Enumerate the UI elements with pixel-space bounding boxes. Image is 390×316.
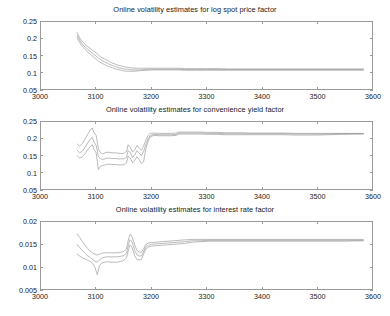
subplot-log-spot-price-factor: Online volatility estimates for log spot…: [0, 0, 390, 105]
y-axis-tick-label: 0.02: [0, 217, 37, 226]
plot-area: [40, 21, 373, 90]
data-line: [77, 134, 364, 170]
x-axis-tick: [262, 287, 263, 290]
data-line: [77, 133, 364, 159]
plot-area: [40, 121, 373, 190]
data-line: [77, 35, 364, 70]
plot-lines: [41, 122, 372, 189]
y-axis-tick: [40, 172, 43, 173]
x-axis-tick: [95, 87, 96, 90]
plot-lines: [41, 222, 372, 289]
x-axis-tick-label: 3300: [199, 292, 215, 301]
x-axis-tick: [206, 21, 207, 24]
x-axis-tick: [206, 287, 207, 290]
x-axis-tick: [206, 87, 207, 90]
y-axis-tick: [370, 155, 373, 156]
plot-area: [40, 221, 373, 290]
data-line: [77, 241, 364, 275]
x-axis-tick: [95, 287, 96, 290]
y-axis-tick-label: 0.25: [0, 117, 37, 126]
y-axis-tick-label: 0.15: [0, 51, 37, 60]
x-axis-tick: [262, 187, 263, 190]
subplot-title: Online volatility estimates for convenie…: [0, 105, 390, 114]
x-axis-tick: [317, 221, 318, 224]
y-axis-tick: [40, 90, 43, 91]
y-axis-tick: [40, 190, 43, 191]
x-axis-tick: [95, 221, 96, 224]
x-axis-tick: [151, 21, 152, 24]
y-axis-tick: [40, 155, 43, 156]
y-axis-tick: [370, 72, 373, 73]
x-axis-tick-label: 3100: [88, 292, 104, 301]
x-axis-tick: [262, 21, 263, 24]
x-axis-tick: [206, 187, 207, 190]
y-axis-tick: [370, 221, 373, 222]
subplot-title: Online volatility estimates for interest…: [0, 205, 390, 214]
x-axis-tick: [95, 21, 96, 24]
x-axis-tick: [95, 121, 96, 124]
plot-lines: [41, 22, 372, 89]
y-axis-tick: [370, 55, 373, 56]
y-axis-tick-label: 0.1: [0, 68, 37, 77]
y-axis-tick: [40, 21, 43, 22]
x-axis-tick: [151, 187, 152, 190]
x-axis-tick-label: 3600: [365, 292, 381, 301]
x-axis-tick: [317, 287, 318, 290]
subplot-interest-rate-factor: Online volatility estimates for interest…: [0, 200, 390, 305]
data-line: [77, 234, 364, 255]
y-axis-tick: [370, 121, 373, 122]
x-axis-tick: [151, 287, 152, 290]
x-axis-tick-label: 3200: [143, 292, 159, 301]
figure-canvas: Online volatility estimates for log spot…: [0, 0, 390, 316]
x-axis-tick-label: 3500: [310, 292, 326, 301]
data-line: [77, 37, 364, 71]
x-axis-tick: [151, 221, 152, 224]
x-axis-tick-label: 3400: [254, 292, 270, 301]
x-axis-tick: [317, 187, 318, 190]
data-line: [77, 128, 364, 154]
x-axis-tick: [95, 187, 96, 190]
subplot-title: Online volatility estimates for log spot…: [0, 5, 390, 14]
y-axis-tick: [40, 72, 43, 73]
y-axis-tick: [370, 172, 373, 173]
x-axis-tick: [151, 87, 152, 90]
y-axis-tick: [370, 90, 373, 91]
x-axis-tick: [262, 121, 263, 124]
y-axis-tick: [370, 38, 373, 39]
x-axis-tick: [317, 87, 318, 90]
data-line: [77, 240, 364, 262]
y-axis-tick-label: 0.015: [0, 240, 37, 249]
y-axis-tick: [40, 267, 43, 268]
y-axis-tick: [40, 221, 43, 222]
data-line: [77, 32, 364, 69]
y-axis-tick: [370, 21, 373, 22]
y-axis-tick: [370, 244, 373, 245]
y-axis-tick: [40, 55, 43, 56]
y-axis-tick: [40, 38, 43, 39]
y-axis-tick: [40, 138, 43, 139]
x-axis-tick: [317, 121, 318, 124]
x-axis-tick: [262, 87, 263, 90]
y-axis-tick-label: 0.25: [0, 17, 37, 26]
y-axis-tick: [40, 121, 43, 122]
y-axis-tick: [370, 138, 373, 139]
x-axis-tick: [206, 121, 207, 124]
subplot-convenience-yield-factor: Online volatility estimates for convenie…: [0, 100, 390, 205]
x-axis-tick: [206, 221, 207, 224]
y-axis-tick: [370, 290, 373, 291]
y-axis-tick: [40, 290, 43, 291]
y-axis-tick-label: 0.2: [0, 34, 37, 43]
x-axis-tick: [151, 121, 152, 124]
y-axis-tick: [370, 190, 373, 191]
y-axis-tick-label: 0.1: [0, 168, 37, 177]
y-axis-tick-label: 0.2: [0, 134, 37, 143]
y-axis-tick-label: 0.15: [0, 151, 37, 160]
y-axis-tick: [40, 244, 43, 245]
x-axis-tick: [262, 221, 263, 224]
x-axis-tick-label: 3000: [32, 292, 48, 301]
y-axis-tick: [370, 267, 373, 268]
y-axis-tick-label: 0.01: [0, 263, 37, 272]
x-axis-tick: [317, 21, 318, 24]
